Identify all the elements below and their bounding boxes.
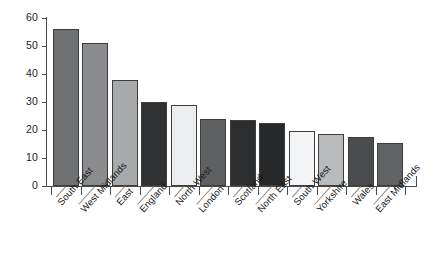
y-axis-tick: 10 — [0, 158, 47, 159]
y-axis-tick-label: 50 — [26, 39, 38, 52]
bar-chart: 0102030405060 South EastWest MidlandsEas… — [0, 0, 434, 278]
bar — [53, 29, 79, 186]
x-axis-label: East — [114, 186, 135, 208]
bar-series — [47, 18, 417, 186]
y-axis-tick-label: 40 — [26, 67, 38, 80]
y-axis-tick: 40 — [0, 74, 47, 75]
y-axis-tick: 30 — [0, 102, 47, 103]
bar — [141, 102, 167, 186]
y-axis-tick: 60 — [0, 18, 47, 19]
y-axis-tick-label: 20 — [26, 123, 38, 136]
y-axis-tick-label: 60 — [26, 11, 38, 24]
x-axis-labels: South EastWest MidlandsEastEnglandNorth … — [0, 186, 434, 278]
bar — [348, 137, 374, 186]
bar — [171, 105, 197, 186]
y-axis-tick: 50 — [0, 46, 47, 47]
y-axis-tick: 20 — [0, 130, 47, 131]
y-axis-tick-label: 30 — [26, 95, 38, 108]
y-axis-tick-label: 10 — [26, 151, 38, 164]
